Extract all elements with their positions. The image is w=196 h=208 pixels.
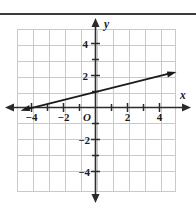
y-tick-label--4: −4 [78,166,90,178]
origin-label: O [83,111,91,123]
y-axis-arrow-down [92,194,100,203]
x-tick-label-2: 2 [125,111,131,123]
x-tick-label--2: −2 [58,111,70,123]
graph-svg: −4 −2 2 4 4 2 −2 −4 O y x [0,14,196,208]
y-tick-label-4: 4 [83,38,89,50]
x-tick-label-4: 4 [157,111,163,123]
x-axis-arrow-right [182,104,191,112]
x-axis-name: x [179,89,186,101]
y-tick-label-2: 2 [83,70,89,82]
x-tick-label--4: −4 [26,111,38,123]
y-axis-name: y [102,18,110,31]
x-axis-tick-labels: −4 −2 2 4 [26,111,163,123]
y-axis-arrow-up [92,18,100,27]
coordinate-plane: −4 −2 2 4 4 2 −2 −4 O y x [0,14,196,208]
x-axis-arrow-left [5,104,14,112]
y-tick-label--2: −2 [78,134,90,146]
graph-figure: −4 −2 2 4 4 2 −2 −4 O y x [0,0,196,208]
